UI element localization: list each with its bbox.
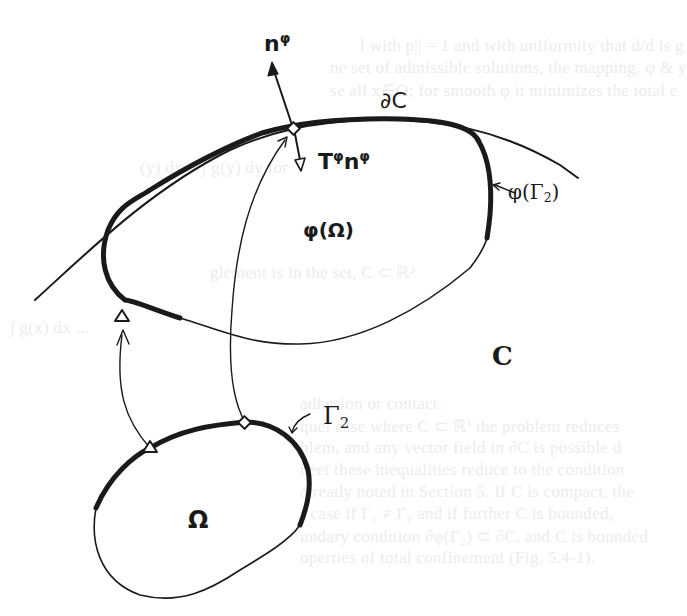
constraint-boundary-curve: [35, 120, 578, 300]
deformed-gamma2-arc: [478, 140, 491, 238]
deformed-point-triangle-marker: [115, 310, 129, 321]
traction-label: Tφnφ: [318, 150, 370, 173]
deformed-body-label: φ(Ω): [303, 220, 354, 240]
reference-body-label: Ω: [188, 508, 208, 532]
constraint-set-label: C: [492, 343, 513, 369]
gamma2-label: Γ2: [323, 404, 349, 431]
deformed-body-contact-arc: [103, 119, 478, 318]
gamma2-pointer: [292, 414, 310, 432]
normal-vector-arrow: [273, 68, 293, 128]
boundary-c-label: ∂C: [380, 90, 407, 112]
normal-vector-label: nφ: [264, 32, 290, 55]
reference-point-diamond-marker: [238, 416, 251, 429]
mapping-arrow-diamond: [231, 140, 285, 422]
deformed-body-outline: [180, 238, 487, 344]
deformed-gamma2-label: φ(Γ2): [508, 182, 559, 205]
traction-vector-arrow: [295, 134, 300, 160]
mapping-arrow-triangle: [120, 335, 150, 448]
